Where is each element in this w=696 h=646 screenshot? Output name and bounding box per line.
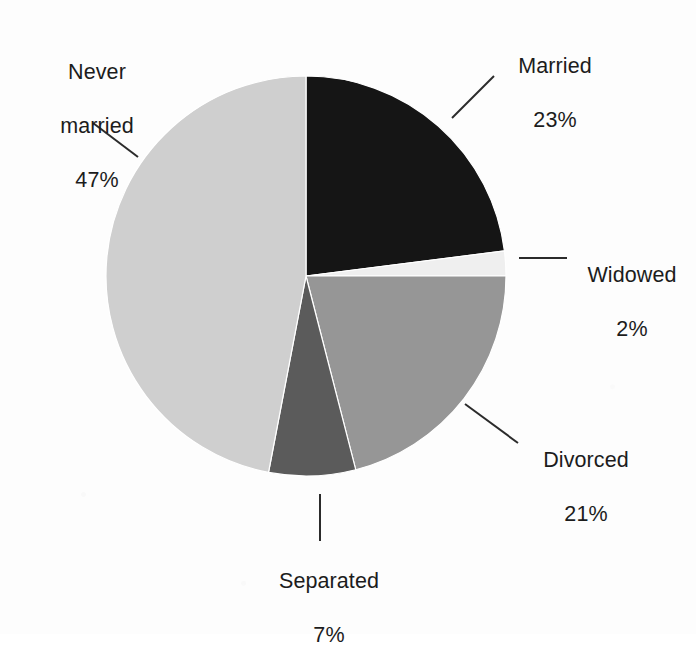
callout-widowed-label: Widowed xyxy=(573,262,691,289)
callout-divorced-label: Divorced xyxy=(521,447,651,474)
callout-never-married-label-line1: Never xyxy=(22,59,172,86)
leader-line-married xyxy=(452,76,494,118)
callout-never-married-value: 47% xyxy=(22,167,172,194)
callout-never-married: Never married 47% xyxy=(22,32,172,222)
callout-divorced-value: 21% xyxy=(521,501,651,528)
callout-separated-label: Separated xyxy=(254,568,404,595)
callout-married-value: 23% xyxy=(490,107,620,134)
callout-divorced: Divorced 21% xyxy=(521,420,651,555)
callout-separated: Separated 7% xyxy=(254,541,404,646)
pie-slice-married[interactable] xyxy=(306,76,504,276)
callout-separated-value: 7% xyxy=(254,622,404,646)
leader-line-divorced xyxy=(465,404,518,443)
callout-never-married-label-line2: married xyxy=(22,113,172,140)
callout-widowed-value: 2% xyxy=(573,316,691,343)
callout-married: Married 23% xyxy=(490,26,620,161)
callout-widowed: Widowed 2% xyxy=(573,235,691,370)
callout-married-label: Married xyxy=(490,53,620,80)
